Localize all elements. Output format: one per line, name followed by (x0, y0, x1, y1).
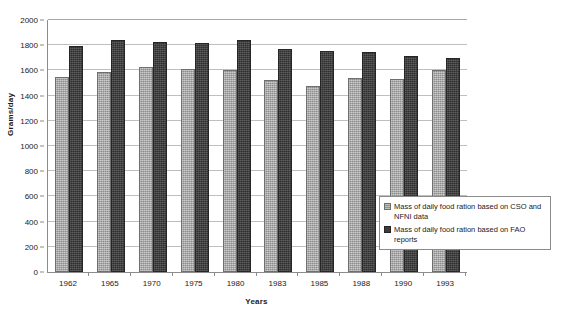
bar (306, 86, 320, 272)
bar (264, 80, 278, 272)
bar (69, 46, 83, 272)
legend-label: Mass of daily food ration based on CSO a… (394, 202, 546, 222)
bar (223, 70, 237, 272)
bar (139, 67, 153, 272)
y-axis-tick (40, 246, 44, 247)
x-axis-ticks (47, 272, 466, 277)
x-axis-tick (131, 272, 173, 277)
x-axis-tick (340, 272, 382, 277)
x-axis-tick (215, 272, 257, 277)
y-axis-tick-label: 1800 (20, 41, 38, 50)
y-axis-tick (40, 272, 44, 273)
bar (195, 43, 209, 272)
bar (278, 49, 292, 272)
y-axis-tick-label: 1400 (20, 91, 38, 100)
y-axis-tick (40, 171, 44, 172)
bar-group (90, 20, 132, 272)
legend-swatch-icon (384, 203, 391, 210)
y-axis-tick-labels: 0200400600800100012001400160018002000 (0, 20, 44, 272)
y-axis-tick-label: 2000 (20, 16, 38, 25)
x-axis-tick-label: 1970 (131, 279, 173, 288)
y-axis-tick-label: 1600 (20, 66, 38, 75)
y-axis-tick-label: 1000 (20, 142, 38, 151)
x-axis-tick-label: 1990 (382, 279, 424, 288)
x-axis-tick-label: 1975 (173, 279, 215, 288)
legend-swatch-icon (384, 226, 391, 233)
legend-item: Mass of daily food ration based on FAO r… (384, 225, 546, 245)
bar-group (258, 20, 300, 272)
x-axis-title: Years (47, 297, 466, 306)
y-axis-tick-label: 800 (25, 167, 38, 176)
bar-group (174, 20, 216, 272)
x-axis-tick (382, 272, 424, 277)
bar (348, 78, 362, 272)
x-axis-tick-label: 1965 (89, 279, 131, 288)
bar (111, 40, 125, 272)
x-axis-tick-label: 1983 (257, 279, 299, 288)
y-axis-tick (40, 70, 44, 71)
y-axis-tick (40, 95, 44, 96)
x-axis-tick (47, 272, 89, 277)
x-axis-tick (89, 272, 131, 277)
bar-group (341, 20, 383, 272)
y-axis-tick-label: 200 (25, 242, 38, 251)
x-axis-tick (424, 272, 466, 277)
legend: Mass of daily food ration based on CSO a… (379, 196, 551, 250)
bar (237, 40, 251, 272)
y-axis-tick (40, 146, 44, 147)
bar (55, 77, 69, 272)
x-axis-tick-labels: 1962196519701975198019831985198819901993 (47, 279, 466, 288)
x-axis-tick-label: 1980 (215, 279, 257, 288)
x-axis-tick-label: 1993 (424, 279, 466, 288)
bar (97, 72, 111, 272)
y-axis-tick-label: 600 (25, 192, 38, 201)
bar (362, 52, 376, 273)
bar-group (132, 20, 174, 272)
y-axis-tick-label: 0 (34, 268, 38, 277)
bar (181, 69, 195, 272)
legend-item: Mass of daily food ration based on CSO a… (384, 202, 546, 222)
bar-chart: Grams/day 020040060080010001200140016001… (0, 0, 561, 319)
y-axis-tick-label: 400 (25, 217, 38, 226)
y-axis-tick-label: 1200 (20, 116, 38, 125)
x-axis-tick (257, 272, 299, 277)
y-axis-tick (40, 45, 44, 46)
x-axis-tick (173, 272, 215, 277)
y-axis-tick (40, 120, 44, 121)
bar (320, 51, 334, 272)
bar-group (216, 20, 258, 272)
y-axis-tick (40, 221, 44, 222)
bar (153, 42, 167, 272)
x-axis-tick (298, 272, 340, 277)
legend-label: Mass of daily food ration based on FAO r… (394, 225, 546, 245)
x-axis-tick-label: 1985 (298, 279, 340, 288)
bar-group (299, 20, 341, 272)
y-axis-tick (40, 196, 44, 197)
x-axis-tick-label: 1962 (47, 279, 89, 288)
x-axis-tick-label: 1988 (340, 279, 382, 288)
y-axis-tick (40, 20, 44, 21)
bar-group (48, 20, 90, 272)
